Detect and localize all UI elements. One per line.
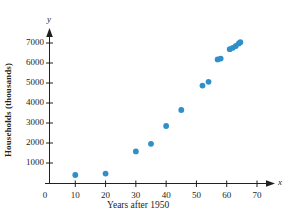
data-points (72, 39, 243, 178)
plot-canvas: Households (thousands) (0, 0, 288, 222)
data-point (163, 123, 169, 129)
data-point (72, 172, 78, 178)
x-tick-label: 30 (124, 190, 148, 200)
x-tick-label: 40 (154, 190, 178, 200)
data-point (218, 56, 224, 62)
y-tick-label: 4000 (18, 97, 44, 107)
scatter-plot-figure: Households (thousands) 10002000300040005… (0, 0, 288, 222)
x-tick-label: 70 (245, 190, 269, 200)
data-point (206, 79, 212, 85)
y-tick-label: 6000 (18, 57, 44, 67)
y-tick-label: 5000 (18, 77, 44, 87)
y-tick-label: 2000 (18, 137, 44, 147)
y-axis-title: Households (thousands) (3, 63, 13, 157)
x-axis-title: Years after 1950 (107, 200, 169, 210)
data-point (178, 107, 184, 113)
data-point (133, 149, 139, 155)
data-point (237, 39, 243, 45)
y-tick-label: 3000 (18, 117, 44, 127)
y-axis-arrowhead (46, 28, 53, 37)
x-tick-label: 20 (94, 190, 118, 200)
data-point (200, 83, 206, 89)
y-tick-label: 1000 (18, 157, 44, 167)
y-axis-name-label: y (47, 14, 51, 24)
x-tick-label: 0 (33, 190, 57, 200)
x-axis-name-label: x (278, 177, 282, 187)
axes (45, 28, 275, 187)
x-axis-arrowhead (266, 180, 275, 187)
data-point (103, 171, 109, 177)
data-point (148, 141, 154, 147)
x-tick-label: 50 (184, 190, 208, 200)
y-tick-label: 7000 (18, 37, 44, 47)
x-tick-label: 60 (215, 190, 239, 200)
x-tick-label: 10 (63, 190, 87, 200)
